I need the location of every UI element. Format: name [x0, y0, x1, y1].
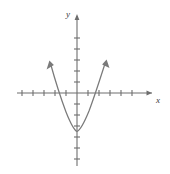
y-axis-label: y	[65, 9, 70, 19]
parabola-right-arrowhead	[102, 60, 109, 69]
coordinate-plane-svg: y x	[0, 0, 170, 174]
parabola-curve	[51, 62, 106, 132]
parabola-left-arrowhead	[47, 61, 54, 70]
y-axis-arrowhead	[75, 14, 80, 20]
graph-figure: y x	[0, 0, 170, 174]
x-axis-label: x	[155, 95, 160, 105]
x-axis-arrowhead	[147, 91, 153, 96]
